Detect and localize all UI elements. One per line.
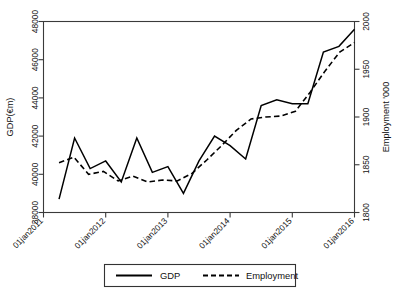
y-tick-label-right: 1800: [361, 203, 371, 222]
y-tick-label-right: 1900: [361, 107, 371, 126]
line-chart: 380004000042000440004600048000 180018501…: [0, 0, 397, 299]
chart-legend: GDP Employment: [105, 265, 299, 287]
chart-container: 380004000042000440004600048000 180018501…: [0, 0, 397, 299]
y-tick-label-left: 42000: [30, 124, 40, 148]
y-tick-label-left: 44000: [30, 86, 40, 110]
y-tick-label-left: 48000: [30, 10, 40, 34]
y-tick-label-right: 2000: [361, 12, 371, 31]
y-tick-label-left: 46000: [30, 48, 40, 72]
legend-label-employment: Employment: [246, 270, 298, 281]
chart-background: [0, 0, 397, 299]
legend-label-gdp: GDP: [160, 270, 180, 281]
y-tick-label-right: 1850: [361, 155, 371, 174]
y-tick-label-right: 1950: [361, 60, 371, 79]
y-axis-title-right: Employment '000: [381, 82, 391, 153]
y-axis-title-left: GDP(€m): [5, 98, 15, 137]
y-tick-label-left: 40000: [30, 162, 40, 186]
